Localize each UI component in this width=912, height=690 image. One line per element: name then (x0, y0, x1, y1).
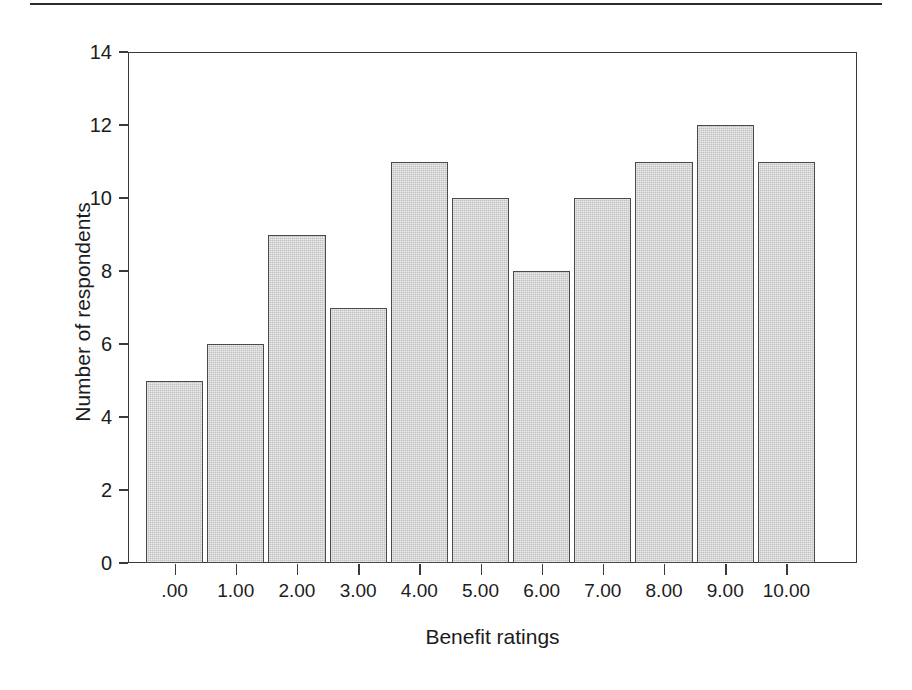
x-tick-mark (175, 564, 176, 575)
bar-1-00 (207, 344, 264, 563)
y-tick-mark (119, 124, 128, 125)
x-tick-label: 7.00 (558, 580, 648, 602)
x-axis-title: Benefit ratings (128, 625, 857, 649)
bar-5-00 (452, 198, 509, 563)
x-tick-mark (481, 564, 482, 575)
x-tick-label: 4.00 (374, 580, 464, 602)
y-tick-mark (119, 562, 128, 563)
y-tick-mark (119, 197, 128, 198)
x-tick-mark (419, 564, 420, 575)
x-tick-label: .00 (130, 580, 220, 602)
x-tick-label: 9.00 (680, 580, 770, 602)
bar-2-00 (268, 235, 325, 564)
y-tick-mark (119, 51, 128, 52)
x-tick-label: 10.00 (741, 580, 831, 602)
x-tick-mark (542, 564, 543, 575)
x-tick-label: 8.00 (619, 580, 709, 602)
x-tick-label: 5.00 (436, 580, 526, 602)
x-tick-mark (236, 564, 237, 575)
x-tick-mark (603, 564, 604, 575)
x-tick-label: 6.00 (497, 580, 587, 602)
x-tick-mark (725, 564, 726, 575)
y-tick-label: 0 (60, 553, 112, 573)
x-tick-mark (786, 564, 787, 575)
chart-figure: .001.002.003.004.005.006.007.008.009.001… (0, 0, 912, 690)
y-tick-label: 14 (60, 42, 112, 62)
bar-9-00 (697, 125, 754, 563)
bar-4-00 (391, 162, 448, 564)
bar-3-00 (330, 308, 387, 564)
bar-series (128, 52, 857, 563)
x-tick-mark (664, 564, 665, 575)
x-tick-label: 3.00 (313, 580, 403, 602)
y-tick-mark (119, 343, 128, 344)
y-tick-mark (119, 416, 128, 417)
bar-10-00 (758, 162, 815, 564)
x-tick-label: 1.00 (191, 580, 281, 602)
y-tick-mark (119, 489, 128, 490)
x-tick-label: 2.00 (252, 580, 342, 602)
bar-7-00 (574, 198, 631, 563)
y-axis-title: Number of respondents (71, 102, 95, 522)
bar-6-00 (513, 271, 570, 563)
bar-8-00 (635, 162, 692, 564)
x-tick-mark (358, 564, 359, 575)
x-tick-mark (297, 564, 298, 575)
bar--00 (146, 381, 203, 564)
y-tick-mark (119, 270, 128, 271)
